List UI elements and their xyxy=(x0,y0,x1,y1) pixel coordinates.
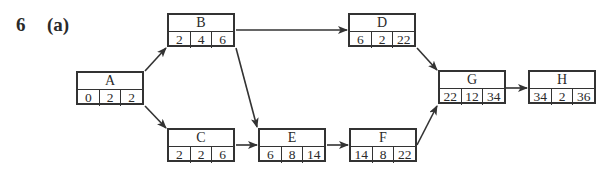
earliest-start: 22 xyxy=(440,89,461,105)
earliest-start: 0 xyxy=(78,90,99,106)
node-label: C xyxy=(169,130,233,147)
node-label: F xyxy=(351,130,415,147)
duration: 8 xyxy=(281,147,303,163)
earliest-start: 34 xyxy=(530,89,551,105)
node-h: H 34236 xyxy=(528,70,596,104)
earliest-finish: 14 xyxy=(302,147,324,163)
earliest-finish: 6 xyxy=(211,32,233,48)
node-label: A xyxy=(78,73,142,90)
node-f: F 14822 xyxy=(349,128,417,162)
earliest-finish: 22 xyxy=(392,32,414,48)
earliest-finish: 22 xyxy=(393,147,415,163)
node-label: E xyxy=(260,130,324,147)
edge-b-e xyxy=(236,48,257,127)
node-g: G 221234 xyxy=(438,70,506,104)
earliest-finish: 36 xyxy=(572,89,594,105)
duration: 2 xyxy=(99,90,121,106)
node-label: B xyxy=(169,15,233,32)
earliest-start: 2 xyxy=(169,147,190,163)
node-a: A 022 xyxy=(76,71,144,105)
duration: 2 xyxy=(190,147,212,163)
earliest-start: 6 xyxy=(260,147,281,163)
duration: 8 xyxy=(372,147,394,163)
earliest-start: 2 xyxy=(169,32,190,48)
node-label: D xyxy=(350,15,414,32)
duration: 4 xyxy=(190,32,212,48)
earliest-finish: 34 xyxy=(482,89,504,105)
node-d: D 6222 xyxy=(348,13,416,47)
node-label: H xyxy=(530,72,594,89)
earliest-start: 14 xyxy=(351,147,372,163)
node-b: B 246 xyxy=(167,13,235,47)
node-c: C 226 xyxy=(167,128,235,162)
edge-a-b xyxy=(145,48,166,71)
node-label: G xyxy=(440,72,504,89)
duration: 12 xyxy=(461,89,483,105)
node-e: E 6814 xyxy=(258,128,326,162)
earliest-finish: 2 xyxy=(120,90,142,106)
earliest-finish: 6 xyxy=(211,147,233,163)
edge-d-g xyxy=(417,48,437,70)
edge-a-c xyxy=(145,106,166,128)
earliest-start: 6 xyxy=(350,32,371,48)
edge-f-g xyxy=(417,106,437,145)
duration: 2 xyxy=(551,89,573,105)
duration: 2 xyxy=(371,32,393,48)
